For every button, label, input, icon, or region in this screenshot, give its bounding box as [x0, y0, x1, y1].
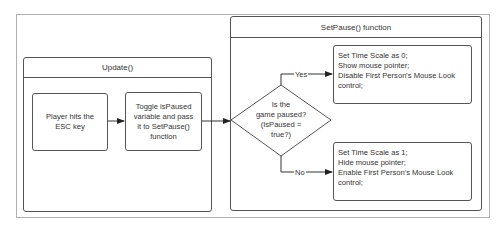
- no-label: No: [294, 168, 306, 177]
- decision-text-line: Is the: [246, 100, 316, 110]
- decision-text: Is the game paused? (IsPaused = true?): [246, 100, 316, 140]
- decision-text-line: (IsPaused =: [246, 120, 316, 130]
- decision-text-line: true?): [246, 130, 316, 140]
- edge-no: [281, 156, 332, 172]
- yes-label: Yes: [294, 70, 308, 79]
- decision-text-line: game paused?: [246, 110, 316, 120]
